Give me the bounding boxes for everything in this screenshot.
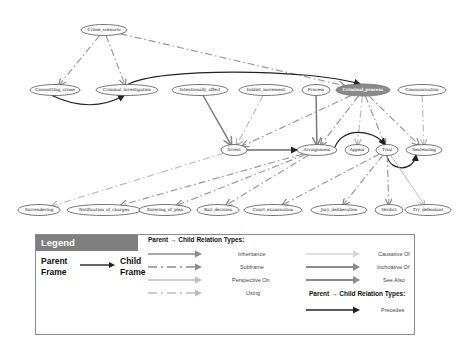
- frame-graph: Crime_scenarioCommitting_crimeCriminal_i…: [0, 0, 470, 225]
- legend-relation-types-title: Parent → Child Relation Types:: [148, 236, 244, 243]
- node-trial: Trial: [376, 145, 398, 156]
- node-surrendering: Surrendering: [18, 205, 60, 216]
- edge-subframe-trial-to-verdict: [387, 156, 389, 205]
- edge-subframe-crime_scenario-to-criminal_investigation: [106, 36, 125, 85]
- legend-relation-types-title-2: Parent → Child Relation Types:: [309, 290, 405, 297]
- legend-item-precedes: Precedes: [306, 305, 416, 315]
- nodes-layer: Crime_scenarioCommitting_crimeCriminal_i…: [18, 25, 451, 216]
- node-label: Crime_scenario: [87, 27, 121, 32]
- legend-label-inchoative-of: Inchoative Of: [377, 262, 409, 272]
- inheritance-arrow-icon: [148, 249, 204, 259]
- causative-of-arrow-icon: [306, 249, 362, 259]
- node-label: Jury_deliberation: [320, 207, 358, 212]
- node-criminal-process: Criminal_process: [336, 84, 390, 96]
- edge-inheritance-process-to-arraignment: [316, 96, 317, 145]
- node-crime-scenario: Crime_scenario: [81, 25, 127, 36]
- node-label: Intentionally_affect: [179, 87, 220, 92]
- legend-child-frame: Child Frame: [120, 256, 146, 278]
- node-label: Arrest: [226, 147, 241, 152]
- node-label: Committing_crime: [35, 87, 75, 92]
- legend-label-see-also: See Also: [383, 275, 405, 285]
- legend-item-inchoative-of: Inchoative Of: [306, 262, 416, 272]
- node-label: Surrendering: [25, 207, 54, 212]
- legend-label-subframe: Subframe: [240, 262, 264, 272]
- node-criminal-investigation: Criminal_investigation: [96, 85, 158, 96]
- node-appeal: Appeal: [345, 145, 369, 156]
- node-arraignment: Arraignment: [297, 145, 337, 156]
- legend-label-perspective-on: Perspective On: [232, 275, 270, 285]
- node-label: Arraignment: [302, 147, 330, 152]
- node-sentencing: Sentencing: [406, 145, 442, 156]
- node-verdict: Verdict: [375, 205, 403, 216]
- perspective-on-arrow-icon: [148, 275, 204, 285]
- legend-item-inheritance: Inheritance: [148, 249, 288, 259]
- node-label: Try_defendant: [413, 207, 444, 212]
- node-label: Verdict: [380, 207, 396, 212]
- legend-item-causative-of: Causative Of: [306, 249, 416, 259]
- node-label: Appeal: [349, 147, 365, 152]
- legend-item-subframe: Subframe: [148, 262, 288, 272]
- node-committing-crime: Committing_crime: [30, 85, 80, 96]
- using-arrow-icon: [148, 288, 204, 298]
- node-label: Criminal_investigation: [103, 87, 151, 92]
- legend-label-causative-of: Causative Of: [378, 249, 410, 259]
- node-bail-decision: Bail_decision: [197, 205, 239, 216]
- edge-causative-trial-to-try_defendant: [391, 155, 425, 204]
- edge-subframe-arraignment-to-entering_of_plea: [177, 155, 305, 206]
- node-label: Sentencing: [412, 147, 436, 152]
- legend-parent-frame: Parent Frame: [41, 256, 67, 278]
- precedes-arrow-icon: [306, 305, 362, 315]
- edge-inheritance-intentionally_affect-to-arrest: [203, 96, 231, 145]
- node-label: Entering_of_plea: [147, 207, 183, 212]
- legend-label-using: Using: [246, 288, 260, 298]
- node-inhibit-movement: Inhibit_movement: [239, 85, 293, 96]
- node-arrest: Arrest: [221, 145, 247, 156]
- edge-using-inhibit_movement-to-arrest: [237, 96, 263, 145]
- node-notification-of-charges: Notification_of_charges: [67, 205, 141, 216]
- edge-subframe-criminal_process-to-trial: [365, 96, 384, 145]
- edge-using-communication-to-sentencing: [422, 96, 424, 145]
- node-try-defendant: Try_defendant: [405, 205, 451, 216]
- node-label: Process: [308, 87, 324, 92]
- edge-subframe-criminal_process-to-arrest: [243, 95, 352, 145]
- subframe-arrow-icon: [148, 262, 204, 272]
- node-label: Inhibit_movement: [247, 87, 286, 92]
- legend-label-precedes: Precedes: [381, 305, 404, 315]
- edge-precedes-criminal_investigation-to-criminal_process: [128, 72, 360, 84]
- legend-header: Legend: [36, 235, 138, 251]
- edge-subframe-trial-to-court_examination: [283, 154, 380, 205]
- edge-subframe-arraignment-to-notification_of_charges: [121, 154, 303, 205]
- legend-main-arrow-icon: [80, 261, 116, 269]
- node-intentionally-affect: Intentionally_affect: [172, 85, 228, 96]
- edge-subframe-crime_scenario-to-committing_crime: [59, 35, 99, 84]
- inchoative-of-arrow-icon: [306, 262, 362, 272]
- edge-subframe-crime_scenario-to-criminal_process: [121, 34, 345, 86]
- edge-precedes-committing_crime-to-criminal_investigation: [52, 96, 124, 105]
- legend-parent-line1: Parent: [41, 256, 67, 267]
- node-label: Trial: [382, 147, 393, 152]
- legend-item-perspective-on: Perspective On: [148, 275, 288, 285]
- legend-item-see-also: See Also: [306, 275, 416, 285]
- node-label: Bail_decision: [204, 207, 232, 212]
- node-label: Criminal_process: [343, 87, 384, 92]
- legend-child-line1: Child: [120, 256, 146, 267]
- edge-using-criminal_process-to-appeal: [358, 96, 363, 145]
- legend-child-line2: Frame: [120, 267, 146, 278]
- node-label: Notification_of_charges: [79, 207, 129, 212]
- legend-label-inheritance: Inheritance: [238, 249, 265, 259]
- node-communication: Communication: [398, 85, 446, 96]
- node-process: Process: [302, 85, 330, 96]
- node-court-examination: Court_examination: [244, 205, 302, 216]
- legend-item-using: Using: [148, 288, 288, 298]
- edge-subframe-criminal_process-to-arraignment: [321, 96, 358, 145]
- node-entering-of-plea: Entering_of_plea: [139, 205, 191, 216]
- legend-parent-line2: Frame: [41, 267, 67, 278]
- legend-box: Legend Parent Frame Child Frame Parent →…: [35, 234, 415, 335]
- edges-layer: [52, 34, 424, 206]
- node-label: Court_examination: [253, 207, 294, 212]
- edge-using-arrest-to-surrendering: [53, 153, 224, 206]
- see-also-arrow-icon: [306, 275, 362, 285]
- node-jury-deliberation: Jury_deliberation: [311, 205, 367, 216]
- node-label: Communication: [405, 87, 439, 92]
